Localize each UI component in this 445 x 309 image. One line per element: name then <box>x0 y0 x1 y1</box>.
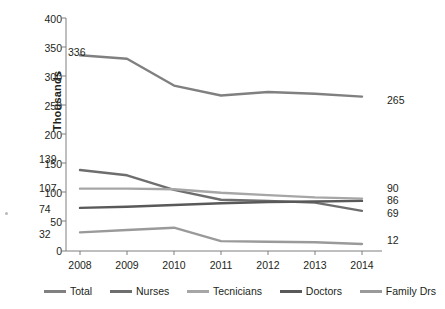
label-nurses-end: 69 <box>387 207 399 219</box>
legend-label: Family Drs <box>386 285 436 297</box>
label-total-end: 265 <box>387 94 405 106</box>
series-line-total <box>80 55 362 96</box>
legend-item-family-drs[interactable]: Family Drs <box>360 285 436 297</box>
legend-swatch-icon <box>360 290 382 293</box>
series-line-family-drs <box>80 228 362 244</box>
chart-legend: TotalNursesTecniciansDoctorsFamily Drs <box>40 281 440 301</box>
legend-item-total[interactable]: Total <box>44 285 92 297</box>
legend-item-nurses[interactable]: Nurses <box>110 285 169 297</box>
label-technicians-end: 90 <box>387 182 399 194</box>
plot-area <box>0 0 445 309</box>
series-lines-group <box>80 55 362 244</box>
legend-label: Doctors <box>306 285 342 297</box>
label-total-start: 336 <box>68 46 86 58</box>
legend-swatch-icon <box>187 290 209 293</box>
label-familydrs-start: 32 <box>39 228 51 240</box>
label-nurses-start: 139 <box>39 153 57 165</box>
label-doctors-end: 86 <box>387 194 399 206</box>
chart-container: Thousands 400 350 300 250 200 150 100 50… <box>0 0 445 309</box>
series-line-tecnicians <box>80 189 362 199</box>
legend-item-doctors[interactable]: Doctors <box>280 285 342 297</box>
legend-item-tecnicians[interactable]: Tecnicians <box>187 285 262 297</box>
legend-label: Total <box>70 285 92 297</box>
label-familydrs-end: 12 <box>387 234 399 246</box>
legend-swatch-icon <box>280 290 302 293</box>
label-doctors-start: 74 <box>39 203 51 215</box>
legend-label: Tecnicians <box>213 285 262 297</box>
legend-swatch-icon <box>110 290 132 293</box>
label-technicians-start: 107 <box>39 182 57 194</box>
legend-label: Nurses <box>136 285 169 297</box>
series-line-nurses <box>80 170 362 211</box>
legend-swatch-icon <box>44 290 66 293</box>
